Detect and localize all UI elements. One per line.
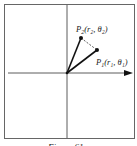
figure-caption: Figure 61 bbox=[47, 142, 83, 146]
polar-points-diagram: P2(r₂, θ₂) P1(r₁, θ₁) Figure 61 bbox=[0, 0, 137, 146]
chord-p1-p2 bbox=[81, 38, 97, 50]
label-p2: P2(r₂, θ₂) bbox=[75, 24, 108, 35]
x-axis-arrowhead-icon bbox=[124, 70, 133, 76]
point-p2 bbox=[79, 36, 83, 40]
label-p1: P1(r₁, θ₁) bbox=[95, 57, 128, 68]
point-p1 bbox=[95, 48, 99, 52]
origin-point bbox=[66, 72, 69, 75]
